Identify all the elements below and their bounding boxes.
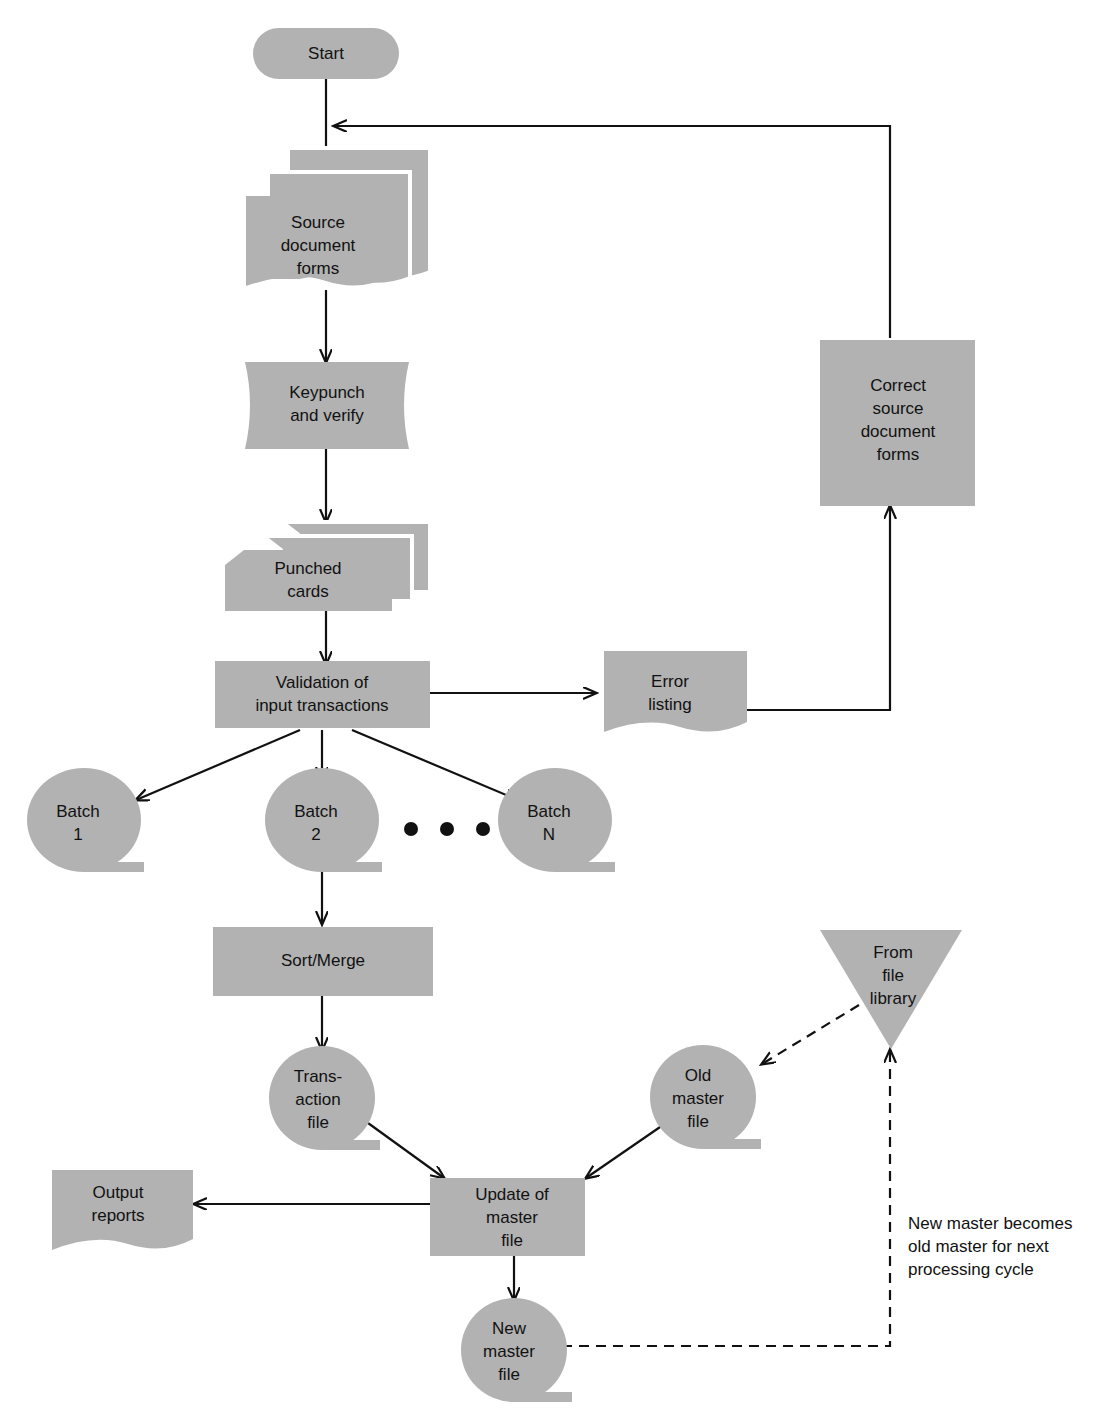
node-start: Start (253, 28, 399, 79)
keypunch-label-1: Keypunch (289, 383, 365, 402)
correct-forms-label-4: forms (877, 445, 920, 464)
node-update-of-master-file: Update of master file (430, 1178, 585, 1256)
batch2-label-2: 2 (311, 825, 320, 844)
batch1-label-1: Batch (56, 802, 99, 821)
validation-label-2: input transactions (255, 696, 388, 715)
source-forms-label-1: Source (291, 213, 345, 232)
node-source-document-forms: Source document forms (246, 148, 430, 286)
node-correct-source-document-forms: Correct source document forms (820, 340, 975, 506)
recycle-note-line-3: processing cycle (908, 1260, 1034, 1279)
output-reports-label-1: Output (92, 1183, 143, 1202)
error-listing-label-2: listing (648, 695, 691, 714)
newmaster-label-3: file (498, 1365, 520, 1384)
flowchart-svg: Start Source document forms Keypunch and… (0, 0, 1102, 1427)
node-keypunch-and-verify: Keypunch and verify (245, 362, 409, 449)
connector-oldmaster-to-update (586, 1125, 663, 1178)
correct-forms-label-1: Correct (870, 376, 926, 395)
validation-process-shape (215, 661, 430, 728)
ellipsis-dot-3 (476, 822, 490, 836)
newmaster-label-1: New (492, 1319, 527, 1338)
connector-library-to-oldmaster-dashed (762, 1005, 859, 1064)
punched-cards-label-1: Punched (274, 559, 341, 578)
node-new-master-file: New master file (461, 1298, 572, 1402)
recycle-note-line-1: New master becomes (908, 1214, 1072, 1233)
update-label-1: Update of (475, 1185, 549, 1204)
batch2-label-1: Batch (294, 802, 337, 821)
correct-forms-label-3: document (861, 422, 936, 441)
ellipsis-dot-2 (440, 822, 454, 836)
node-punched-cards: Punched cards (225, 522, 430, 611)
recycle-note-line-2: old master for next (908, 1237, 1049, 1256)
sort-merge-label: Sort/Merge (281, 951, 365, 970)
punched-cards-label-2: cards (287, 582, 329, 601)
batch2-tape-tail (322, 862, 382, 872)
oldmaster-label-2: master (672, 1089, 724, 1108)
connector-validation-to-batch1 (136, 730, 300, 800)
start-label: Start (308, 44, 344, 63)
node-from-file-library: From file library (820, 930, 962, 1049)
from-library-label-1: From (873, 943, 913, 962)
oldmaster-tape-tail (703, 1139, 761, 1149)
ellipsis-dot-1 (404, 822, 418, 836)
update-label-3: file (501, 1231, 523, 1250)
from-library-label-2: file (882, 966, 904, 985)
connector-transaction-to-update (368, 1123, 444, 1178)
batchN-label-1: Batch (527, 802, 570, 821)
transaction-tape-tail (322, 1140, 380, 1150)
batchN-label-2: N (543, 825, 555, 844)
transaction-label-1: Trans- (294, 1067, 343, 1086)
node-batch-1: Batch 1 (27, 768, 144, 872)
connector-validation-to-batchN (352, 730, 518, 800)
node-batch-n: Batch N (498, 768, 615, 872)
batch1-tape-tail (84, 862, 144, 872)
batch-ellipsis (404, 822, 490, 836)
transaction-label-2: action (295, 1090, 340, 1109)
node-sort-merge: Sort/Merge (213, 927, 433, 996)
node-validation: Validation of input transactions (215, 661, 430, 728)
keypunch-label-2: and verify (290, 406, 364, 425)
batchN-tape-tail (555, 862, 615, 872)
node-transaction-file: Trans- action file (269, 1046, 380, 1150)
newmaster-tape-tail (514, 1392, 572, 1402)
output-reports-label-2: reports (92, 1206, 145, 1225)
newmaster-label-2: master (483, 1342, 535, 1361)
oldmaster-label-1: Old (685, 1066, 711, 1085)
error-listing-document-shape (604, 651, 747, 732)
connector-error-to-correct (747, 506, 890, 710)
node-batch-2: Batch 2 (265, 768, 382, 872)
source-forms-label-3: forms (297, 259, 340, 278)
batch1-label-2: 1 (73, 825, 82, 844)
oldmaster-label-3: file (687, 1112, 709, 1131)
correct-forms-label-2: source (872, 399, 923, 418)
node-error-listing: Error listing (604, 651, 747, 732)
node-old-master-file: Old master file (650, 1045, 761, 1149)
node-output-reports: Output reports (52, 1170, 193, 1250)
source-forms-label-2: document (281, 236, 356, 255)
flowchart-canvas: Start Source document forms Keypunch and… (0, 0, 1102, 1427)
from-library-label-3: library (870, 989, 917, 1008)
recycle-note: New master becomes old master for next p… (908, 1214, 1072, 1279)
error-listing-label-1: Error (651, 672, 689, 691)
transaction-label-3: file (307, 1113, 329, 1132)
update-label-2: master (486, 1208, 538, 1227)
validation-label-1: Validation of (276, 673, 369, 692)
